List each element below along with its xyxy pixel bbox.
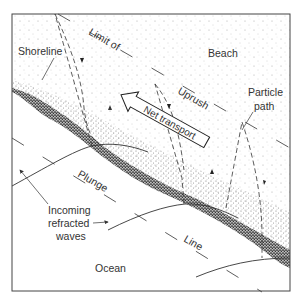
ocean-label: Ocean (95, 262, 126, 274)
incoming-leader-1 (20, 170, 48, 204)
line-label: Line (182, 232, 205, 252)
particle-path-label-2: path (254, 100, 275, 112)
longshore-drift-diagram: Net transport Beach Shoreline Limit of U… (0, 0, 302, 305)
incoming-label-3: waves (55, 230, 86, 242)
incoming-leader-2 (93, 222, 108, 223)
incoming-label-2: refracted (48, 217, 90, 229)
particle-path-label-1: Particle (248, 86, 283, 98)
shoreline-label: Shoreline (18, 45, 63, 57)
beach-label: Beach (208, 47, 238, 59)
incoming-label-1: Incoming (48, 204, 91, 216)
wave-crest-3 (196, 258, 290, 277)
